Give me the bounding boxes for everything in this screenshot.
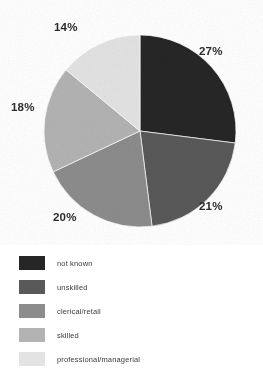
chart-legend: not knownunskilledclerical/retailskilled…	[19, 252, 249, 372]
pie-chart-figure: 27% 21% 20% 18% 14%	[0, 0, 263, 245]
pie-chart-page: 27% 21% 20% 18% 14% not knownunskilledcl…	[0, 0, 263, 382]
legend-swatch	[19, 352, 45, 366]
pie-chart-svg	[0, 0, 263, 245]
slice-label-clerical-retail: 20%	[53, 211, 77, 223]
slice-label-skilled: 18%	[11, 101, 35, 113]
legend-item: unskilled	[19, 276, 249, 298]
slice-label-not-known: 27%	[199, 45, 223, 57]
slice-label-professional-managerial: 14%	[54, 21, 78, 33]
legend-item-label: professional/managerial	[57, 355, 140, 364]
legend-item: clerical/retail	[19, 300, 249, 322]
legend-item-label: unskilled	[57, 283, 88, 292]
legend-swatch	[19, 256, 45, 270]
slice-label-unskilled: 21%	[199, 200, 223, 212]
legend-swatch	[19, 328, 45, 342]
legend-swatch	[19, 280, 45, 294]
legend-item-label: clerical/retail	[57, 307, 101, 316]
legend-item: professional/managerial	[19, 348, 249, 370]
legend-item-label: skilled	[57, 331, 79, 340]
legend-item: skilled	[19, 324, 249, 346]
legend-item-label: not known	[57, 259, 93, 268]
pie-slices	[44, 35, 236, 227]
legend-swatch	[19, 304, 45, 318]
legend-item: not known	[19, 252, 249, 274]
